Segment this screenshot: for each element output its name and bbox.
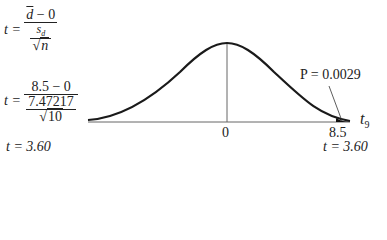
axis-label: t9 <box>360 110 369 130</box>
tick-sublabel: t = 3.60 <box>323 139 368 155</box>
tick-label-0: 0 <box>222 125 229 141</box>
p-value-annotation: P = 0.0029 <box>300 67 361 83</box>
